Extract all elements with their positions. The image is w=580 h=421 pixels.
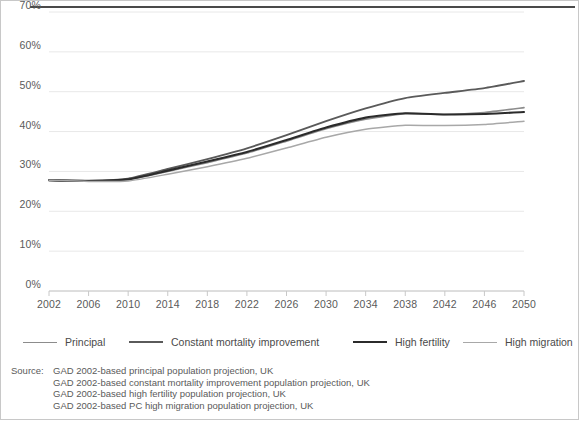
x-axis-tick-label: 2026 (267, 298, 307, 310)
series-line (49, 112, 524, 181)
y-axis-tick-label: 10% (1, 238, 41, 250)
legend-item-label: Constant mortality improvement (171, 336, 319, 348)
x-axis-tick-label: 2030 (306, 298, 346, 310)
y-axis-tick-label: 50% (1, 79, 41, 91)
legend-line-icon (353, 341, 387, 343)
line-chart-plot (1, 1, 580, 421)
legend-line-icon (129, 341, 163, 343)
y-axis-tick-label: 30% (1, 158, 41, 170)
x-axis-tick-label: 2002 (29, 298, 69, 310)
source-lines: GAD 2002-based principal population proj… (53, 365, 531, 411)
legend-item-label: High fertility (395, 336, 450, 348)
source-line: GAD 2002-based constant mortality improv… (53, 377, 531, 389)
x-axis-tick-label: 2050 (504, 298, 544, 310)
x-axis-tick-label: 2018 (187, 298, 227, 310)
legend-item[interactable]: Principal (23, 333, 105, 351)
x-axis-tick-label: 2022 (227, 298, 267, 310)
x-axis-tick-label: 2006 (69, 298, 109, 310)
legend-item[interactable]: High migration (463, 333, 573, 351)
legend-line-icon (463, 342, 497, 343)
y-axis-tick-label: 0% (1, 278, 41, 290)
legend-item[interactable]: Constant mortality improvement (129, 333, 319, 351)
y-axis-tick-label: 70% (1, 0, 41, 11)
y-axis-tick-label: 40% (1, 119, 41, 131)
x-axis-tick-label: 2042 (425, 298, 465, 310)
chart-frame: 0%10%20%30%40%50%60%70% 2002200620102014… (0, 0, 579, 420)
x-axis-tick-label: 2014 (148, 298, 188, 310)
chart-legend: PrincipalConstant mortality improvementH… (23, 333, 563, 351)
x-axis-tick-label: 2010 (108, 298, 148, 310)
x-axis-tick-label: 2034 (346, 298, 386, 310)
x-axis-tick-label: 2046 (464, 298, 504, 310)
source-note: Source: GAD 2002-based principal populat… (11, 365, 531, 411)
source-line: GAD 2002-based high fertility population… (53, 388, 531, 400)
legend-item[interactable]: High fertility (353, 333, 450, 351)
legend-line-icon (23, 342, 57, 343)
x-axis-tick-label: 2038 (385, 298, 425, 310)
source-line: GAD 2002-based principal population proj… (53, 365, 531, 377)
legend-item-label: Principal (65, 336, 105, 348)
series-line (49, 121, 524, 181)
series-line (49, 81, 524, 181)
legend-item-label: High migration (505, 336, 573, 348)
y-axis-tick-label: 60% (1, 39, 41, 51)
series-line (49, 108, 524, 181)
y-axis-tick-label: 20% (1, 198, 41, 210)
source-label: Source: (11, 365, 51, 377)
source-line: GAD 2002-based PC high migration populat… (53, 400, 531, 412)
